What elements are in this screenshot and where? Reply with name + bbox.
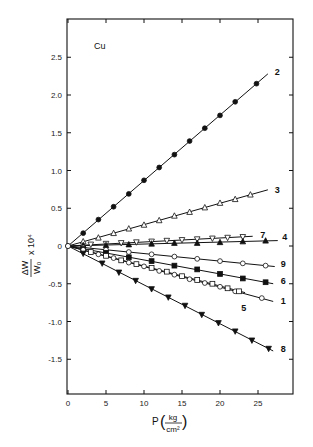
- data-point: [142, 264, 147, 269]
- y-tick-label: 1.5: [51, 129, 63, 138]
- y-tick-label: 2.0: [51, 91, 63, 100]
- series-label-6: 6: [281, 276, 286, 286]
- y-tick-label: 0.5: [51, 204, 63, 213]
- origin-point: [65, 243, 70, 248]
- data-point: [210, 281, 215, 286]
- y-tick-label: -1.0: [48, 318, 62, 327]
- series-label-5: 5: [241, 303, 246, 313]
- data-point: [126, 260, 131, 265]
- series-labels: 123456789: [241, 67, 287, 353]
- data-point: [149, 265, 154, 270]
- data-point: [164, 269, 169, 274]
- x-label-var: P: [152, 416, 159, 427]
- data-point: [142, 178, 147, 183]
- data-point: [111, 204, 116, 209]
- data-point: [187, 277, 192, 282]
- data-point: [240, 261, 245, 266]
- x-label-paren-left: (: [160, 413, 166, 430]
- x-axis-label: P ( kg cm² ): [152, 413, 187, 434]
- y-label-suffix: x 10⁴: [26, 234, 36, 255]
- data-point: [80, 251, 86, 256]
- x-label-num: kg: [169, 413, 177, 422]
- data-point: [126, 250, 131, 255]
- data-point: [225, 286, 230, 291]
- data-point: [172, 254, 177, 259]
- data-point: [218, 113, 223, 118]
- data-point: [202, 281, 207, 286]
- data-point: [157, 269, 162, 274]
- data-point: [157, 165, 162, 170]
- material-annotation: Cu: [94, 41, 106, 51]
- data-point: [172, 152, 177, 157]
- y-tick-label: 0: [58, 242, 63, 251]
- data-point: [263, 263, 268, 268]
- series-label-4: 4: [282, 232, 287, 242]
- data-point: [111, 256, 116, 261]
- y-label-num: ΔW: [20, 260, 30, 275]
- data-point: [180, 274, 185, 279]
- data-point: [99, 261, 105, 266]
- data-point: [88, 250, 93, 255]
- y-tick-label: -0.5: [48, 280, 62, 289]
- data-point: [202, 126, 207, 131]
- data-point: [187, 139, 192, 144]
- data-point: [195, 256, 200, 261]
- data-point: [172, 272, 177, 277]
- x-label-den: cm²: [166, 425, 180, 434]
- data-point: [149, 252, 154, 257]
- data-point: [218, 259, 223, 264]
- data-point: [172, 263, 177, 268]
- x-tick-label: 5: [104, 399, 109, 408]
- series-label-8: 8: [281, 344, 286, 354]
- data-point: [195, 278, 200, 283]
- data-point: [133, 278, 139, 283]
- data-point: [119, 258, 124, 263]
- data-point: [218, 272, 223, 277]
- data-point: [233, 99, 238, 104]
- plot-frame: [67, 19, 293, 394]
- data-point: [81, 231, 86, 236]
- data-point: [218, 284, 223, 289]
- data-point: [104, 253, 109, 258]
- series-label-3: 3: [275, 185, 280, 195]
- series-label-2: 2: [275, 67, 280, 77]
- data-point: [149, 259, 154, 264]
- y-tick-label: 1.0: [51, 167, 63, 176]
- x-tick-label: 10: [140, 399, 149, 408]
- y-tick-label: 2.5: [51, 53, 63, 62]
- data-point: [259, 296, 264, 301]
- y-axis-label: ΔW W₀ x 10⁴: [20, 234, 42, 277]
- data-point: [134, 262, 139, 267]
- series-label-7: 7: [260, 230, 265, 240]
- chart: 05101520252.52.01.51.00.50-0.5-1.0-1.5 1…: [0, 0, 313, 447]
- plot-border: [67, 19, 293, 394]
- data-point: [266, 346, 272, 351]
- data-point: [263, 280, 268, 285]
- data-point: [240, 276, 245, 281]
- data-point: [254, 81, 259, 86]
- data-point: [166, 295, 172, 300]
- data-point: [182, 303, 188, 308]
- data-point: [216, 321, 222, 326]
- x-tick-label: 15: [178, 399, 187, 408]
- data-point: [96, 217, 101, 222]
- data-point: [126, 255, 131, 260]
- axis-ticks: 05101520252.52.01.51.00.50-0.5-1.0-1.5: [48, 19, 293, 408]
- x-tick-label: 25: [254, 399, 263, 408]
- y-label-den: W₀: [32, 262, 42, 274]
- data-point: [195, 267, 200, 272]
- data-point: [237, 289, 242, 294]
- data-point: [96, 252, 101, 257]
- data-point: [126, 192, 131, 197]
- x-label-paren-right: ): [182, 413, 187, 430]
- x-tick-label: 20: [216, 399, 225, 408]
- series-label-1: 1: [281, 296, 286, 306]
- x-tick-label: 0: [66, 399, 71, 408]
- y-tick-label: -1.5: [48, 355, 62, 364]
- data-point: [232, 329, 238, 334]
- series-label-9: 9: [281, 259, 286, 269]
